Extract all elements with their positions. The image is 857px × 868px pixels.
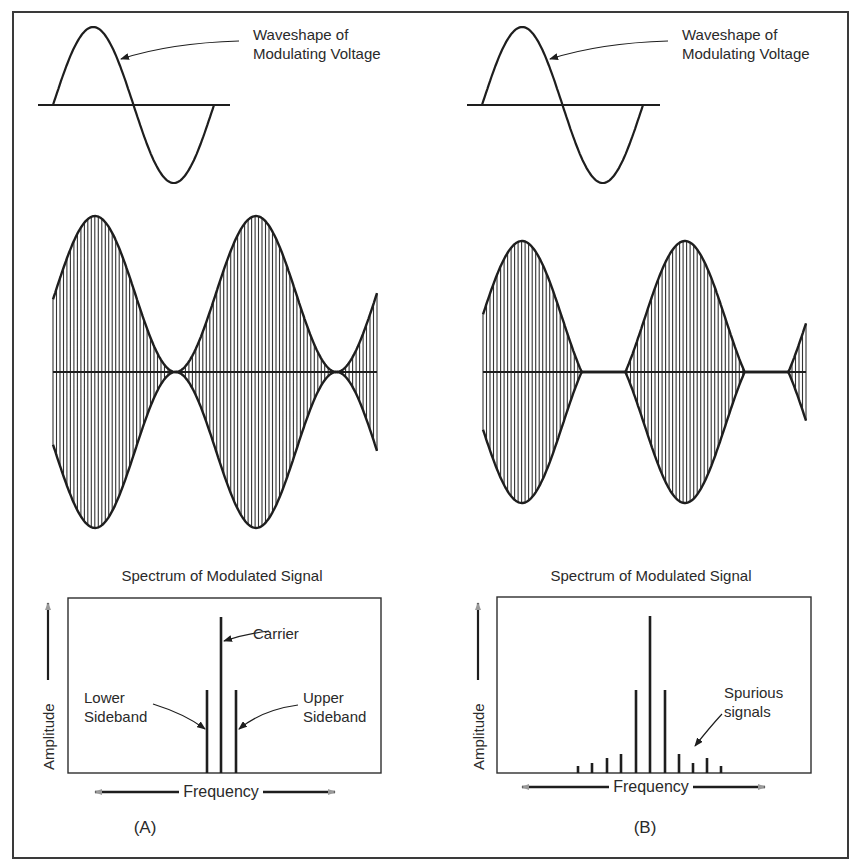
frequency-axis-label-a: Frequency bbox=[183, 783, 259, 801]
amplitude-axis-label-a: Amplitude bbox=[40, 703, 57, 770]
spurious-signals-label: Spurious signals bbox=[724, 683, 783, 721]
frequency-axis-label-b: Frequency bbox=[613, 778, 689, 796]
modulating-label-arrow-b bbox=[550, 41, 668, 59]
carrier-label: Carrier bbox=[253, 624, 299, 643]
annotation-arrow-a-1 bbox=[153, 704, 205, 729]
spectrum-title-b: Spectrum of Modulated Signal bbox=[551, 567, 752, 584]
spectrum-title-a: Spectrum of Modulated Signal bbox=[122, 567, 323, 584]
modulating-label-arrow-a bbox=[121, 41, 239, 59]
diagram-canvas bbox=[0, 0, 857, 868]
spectrum-box-a bbox=[68, 598, 381, 773]
annotation-arrow-a-2 bbox=[239, 705, 298, 729]
amplitude-modulation-figure: Waveshape of Modulating Voltage Spectrum… bbox=[0, 0, 857, 868]
upper-sideband-label: Upper Sideband bbox=[303, 688, 366, 726]
panel-label-a: (A) bbox=[134, 818, 157, 838]
panel-label-b: (B) bbox=[634, 818, 657, 838]
annotation-arrow-b-0 bbox=[695, 714, 722, 746]
lower-sideband-label: Lower Sideband bbox=[84, 688, 147, 726]
amplitude-axis-label-b: Amplitude bbox=[470, 703, 487, 770]
modulating-voltage-label-a: Waveshape of Modulating Voltage bbox=[253, 25, 381, 63]
modulating-voltage-label-b: Waveshape of Modulating Voltage bbox=[682, 25, 810, 63]
